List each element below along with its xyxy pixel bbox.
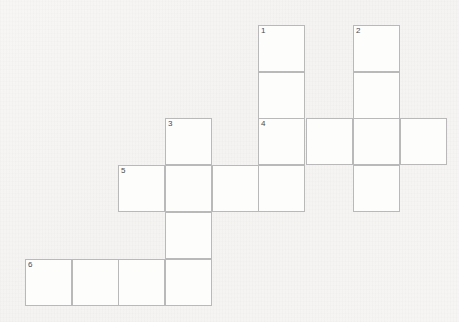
crossword-grid: 123456 bbox=[0, 0, 459, 322]
cell-number-label: 2 bbox=[356, 26, 360, 36]
crossword-cell[interactable] bbox=[118, 259, 165, 306]
cell-number-label: 1 bbox=[261, 26, 265, 36]
crossword-cell[interactable] bbox=[212, 165, 259, 212]
crossword-cell[interactable]: 5 bbox=[118, 165, 165, 212]
cell-number-label: 5 bbox=[121, 166, 125, 176]
crossword-cell[interactable]: 2 bbox=[353, 25, 400, 72]
crossword-cell[interactable] bbox=[258, 165, 305, 212]
crossword-cell[interactable] bbox=[400, 118, 447, 165]
crossword-cell[interactable] bbox=[353, 72, 400, 119]
crossword-puzzle-stage: 123456 bbox=[0, 0, 459, 322]
crossword-cell[interactable] bbox=[353, 118, 400, 165]
cell-number-label: 3 bbox=[168, 119, 172, 129]
crossword-cell[interactable] bbox=[165, 165, 212, 212]
crossword-cell[interactable] bbox=[258, 72, 305, 119]
cell-number-label: 4 bbox=[261, 119, 265, 129]
crossword-cell[interactable] bbox=[72, 259, 119, 306]
crossword-cell[interactable] bbox=[165, 212, 212, 259]
crossword-cell[interactable]: 1 bbox=[258, 25, 305, 72]
cell-number-label: 6 bbox=[28, 260, 32, 270]
crossword-cell[interactable] bbox=[165, 259, 212, 306]
crossword-cell[interactable]: 6 bbox=[25, 259, 72, 306]
crossword-cell[interactable] bbox=[306, 118, 353, 165]
crossword-cell[interactable] bbox=[353, 165, 400, 212]
crossword-cell[interactable]: 3 bbox=[165, 118, 212, 165]
crossword-cell[interactable]: 4 bbox=[258, 118, 305, 165]
